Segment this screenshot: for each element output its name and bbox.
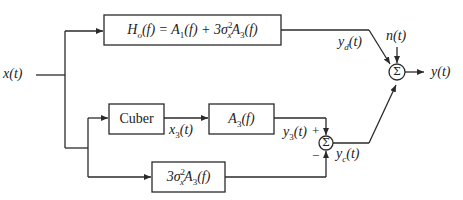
x3-label: x3(t) xyxy=(169,123,193,137)
sigma-a3-block: 3σ2xA3(f) xyxy=(152,170,225,184)
cuber-block: Cuber xyxy=(109,112,164,126)
yd-label: yd(t) xyxy=(338,35,362,49)
inner-summer-sigma: Σ xyxy=(319,137,333,148)
output-label: y(t) xyxy=(431,65,450,79)
a3-block: A3(f) xyxy=(209,112,274,126)
yc-label: yc(t) xyxy=(336,147,359,161)
wire-yc-diag xyxy=(369,85,396,143)
noise-label: n(t) xyxy=(386,29,406,43)
ho-block: Ho(f) = A1(f) + 3σ2xA3(f) xyxy=(104,23,281,37)
y3-label: y3(t) xyxy=(283,125,307,139)
output-summer-sigma: Σ xyxy=(390,66,404,77)
input-label: x(t) xyxy=(3,67,22,81)
plus-sign: + xyxy=(312,124,319,137)
minus-sign: − xyxy=(312,149,319,162)
